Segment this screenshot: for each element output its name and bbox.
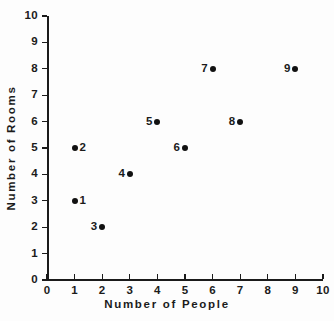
y-tick-label-9: 9 [31, 37, 38, 49]
y-tick-label-0: 0 [31, 274, 38, 286]
data-point-label-7: 7 [201, 63, 207, 75]
plot-area: 012345678910 012345678910 123456789 Numb… [0, 0, 334, 321]
x-tick-label-9: 9 [292, 285, 299, 297]
y-tick-2 [42, 227, 47, 228]
y-tick-7 [42, 95, 47, 96]
data-point-4 [127, 171, 133, 177]
x-tick-5 [184, 274, 185, 279]
y-tick-label-2: 2 [31, 221, 38, 233]
data-point-label-4: 4 [118, 169, 124, 181]
y-tick-label-5: 5 [31, 142, 38, 154]
y-tick-label-4: 4 [31, 169, 38, 181]
x-tick-9 [295, 274, 296, 279]
data-point-1 [72, 198, 78, 204]
data-point-8 [237, 119, 243, 125]
y-tick-1 [42, 253, 47, 254]
data-point-9 [292, 66, 298, 72]
data-point-label-2: 2 [80, 142, 86, 154]
data-point-6 [182, 145, 188, 151]
x-tick-6 [212, 274, 213, 279]
data-point-7 [210, 66, 216, 72]
x-axis-title: Number of People [0, 299, 334, 311]
data-point-3 [99, 224, 105, 230]
x-tick-label-2: 2 [99, 285, 106, 297]
data-point-label-9: 9 [284, 63, 290, 75]
data-point-label-1: 1 [80, 195, 86, 207]
x-tick-4 [157, 274, 158, 279]
y-axis-title: Number of Rooms [6, 85, 18, 210]
data-point-label-3: 3 [91, 221, 97, 233]
y-tick-label-8: 8 [31, 63, 38, 75]
y-tick-9 [42, 42, 47, 43]
x-tick-label-1: 1 [71, 285, 78, 297]
scatter-plot-figure: 012345678910 012345678910 123456789 Numb… [0, 0, 334, 321]
x-tick-label-6: 6 [209, 285, 216, 297]
y-tick-6 [42, 121, 47, 122]
data-point-2 [72, 145, 78, 151]
x-tick-label-3: 3 [126, 285, 133, 297]
y-tick-label-7: 7 [31, 89, 38, 101]
y-tick-label-6: 6 [31, 116, 38, 128]
x-tick-1 [74, 274, 75, 279]
data-point-label-8: 8 [229, 116, 235, 128]
x-tick-label-4: 4 [154, 285, 161, 297]
y-tick-0 [42, 279, 47, 280]
data-point-5 [154, 119, 160, 125]
y-tick-4 [42, 174, 47, 175]
y-tick-label-3: 3 [31, 195, 38, 207]
data-point-label-6: 6 [174, 142, 180, 154]
x-tick-10 [322, 274, 323, 279]
y-axis-line [47, 16, 49, 281]
y-tick-5 [42, 147, 47, 148]
y-tick-3 [42, 200, 47, 201]
x-tick-label-10: 10 [316, 285, 329, 297]
x-tick-label-7: 7 [237, 285, 244, 297]
x-tick-label-0: 0 [44, 285, 51, 297]
x-tick-0 [46, 274, 47, 279]
data-point-label-5: 5 [146, 116, 152, 128]
y-tick-10 [42, 15, 47, 16]
y-tick-label-1: 1 [31, 248, 38, 260]
x-tick-7 [240, 274, 241, 279]
x-tick-8 [267, 274, 268, 279]
y-tick-label-10: 10 [25, 10, 38, 22]
x-tick-label-8: 8 [264, 285, 271, 297]
x-tick-label-5: 5 [182, 285, 189, 297]
x-tick-3 [129, 274, 130, 279]
x-tick-2 [102, 274, 103, 279]
y-tick-8 [42, 68, 47, 69]
x-axis-line [47, 279, 323, 281]
